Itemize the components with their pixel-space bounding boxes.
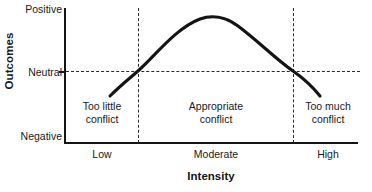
y-tick-label-neutral: Neutral <box>4 66 62 78</box>
zone-divider-left <box>138 8 139 143</box>
zone-divider-right <box>293 8 294 143</box>
y-tick-label-positive: Positive <box>4 3 62 15</box>
neutral-reference-line <box>66 71 360 72</box>
conflict-intensity-chart: Outcomes Positive Neutral Negative Too l… <box>0 0 372 192</box>
x-axis-spine <box>64 142 358 144</box>
zone-label-appropriate-conflict: Appropriate conflict <box>140 100 292 126</box>
y-tick-label-negative: Negative <box>4 130 62 142</box>
x-tick-label-high: High <box>295 148 361 160</box>
zone-label-too-little-conflict: Too little conflict <box>66 100 138 126</box>
x-axis-title: Intensity <box>64 170 358 182</box>
y-axis-neutral-tick <box>59 71 65 73</box>
zone-label-too-much-conflict: Too much conflict <box>295 100 361 126</box>
conflict-curve <box>0 0 372 192</box>
x-tick-label-moderate: Moderate <box>140 148 292 160</box>
x-tick-label-low: Low <box>66 148 138 160</box>
y-axis-title: Outcomes <box>3 26 15 96</box>
